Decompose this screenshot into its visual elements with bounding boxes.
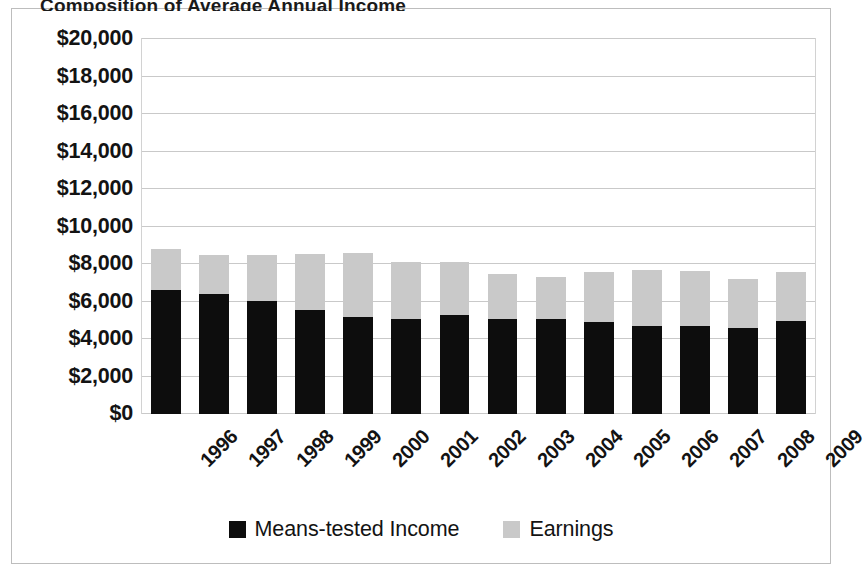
legend-item[interactable]: Earnings xyxy=(503,517,613,542)
x-tick-label: 2003 xyxy=(532,425,579,472)
chart-frame: Composition of Average Annual Income $20… xyxy=(11,8,831,564)
y-tick-label: $14,000 xyxy=(57,138,133,163)
legend-label: Earnings xyxy=(529,517,613,542)
bar-segment-earnings xyxy=(728,279,758,328)
bar-group xyxy=(295,254,325,414)
x-tick-label: 2008 xyxy=(773,425,820,472)
y-tick-label: $20,000 xyxy=(57,26,133,51)
bar-group xyxy=(247,255,277,414)
bar-segment-means-tested-income xyxy=(488,319,518,414)
x-axis: 1996199719981999200020012002200320042005… xyxy=(142,417,815,509)
x-tick-label: 2009 xyxy=(821,425,867,472)
bar-group xyxy=(391,262,421,414)
bar-segment-means-tested-income xyxy=(343,317,373,415)
bar-segment-means-tested-income xyxy=(151,290,181,414)
bar-segment-earnings xyxy=(199,255,229,294)
x-tick-label: 2002 xyxy=(484,425,531,472)
legend-swatch-gray xyxy=(503,521,520,538)
bar-segment-earnings xyxy=(680,271,710,326)
y-tick-label: $12,000 xyxy=(57,176,133,201)
bar-segment-earnings xyxy=(488,274,518,319)
bar-group xyxy=(536,277,566,414)
bar-segment-earnings xyxy=(536,277,566,319)
y-tick-label: $2,000 xyxy=(68,363,133,388)
bar-group xyxy=(440,262,470,414)
bar-group xyxy=(776,272,806,414)
legend-swatch-black xyxy=(229,521,246,538)
bar-segment-means-tested-income xyxy=(728,328,758,414)
bar-segment-means-tested-income xyxy=(632,326,662,414)
x-tick-label: 2007 xyxy=(724,425,771,472)
bar-segment-means-tested-income xyxy=(295,310,325,414)
bars-layer xyxy=(142,39,815,414)
x-tick-label: 2000 xyxy=(388,425,435,472)
y-tick-label: $10,000 xyxy=(57,213,133,238)
bar-group xyxy=(151,249,181,414)
chart-title: Composition of Average Annual Income xyxy=(40,0,406,11)
bar-segment-earnings xyxy=(343,253,373,317)
x-tick-label: 2001 xyxy=(436,425,483,472)
y-tick-label: $0 xyxy=(109,401,133,426)
y-tick-label: $18,000 xyxy=(57,63,133,88)
bar-segment-earnings xyxy=(391,262,421,319)
bar-segment-means-tested-income xyxy=(680,326,710,414)
bar-group xyxy=(632,270,662,414)
bar-segment-earnings xyxy=(295,254,325,310)
x-tick-label: 2005 xyxy=(628,425,675,472)
x-tick-label: 1999 xyxy=(340,425,387,472)
bar-segment-means-tested-income xyxy=(440,315,470,414)
chart-legend: Means-tested IncomeEarnings xyxy=(12,517,830,542)
bar-group xyxy=(584,272,614,415)
y-tick-label: $4,000 xyxy=(68,326,133,351)
x-tick-label: 2004 xyxy=(580,425,627,472)
legend-label: Means-tested Income xyxy=(255,517,460,542)
x-tick-label: 1996 xyxy=(196,425,243,472)
bar-segment-means-tested-income xyxy=(199,294,229,414)
bar-segment-earnings xyxy=(247,255,277,301)
y-tick-label: $6,000 xyxy=(68,288,133,313)
legend-item[interactable]: Means-tested Income xyxy=(229,517,460,542)
bar-segment-earnings xyxy=(776,272,806,321)
bar-group xyxy=(199,255,229,414)
x-tick-label: 1998 xyxy=(292,425,339,472)
bar-group xyxy=(728,279,758,414)
y-tick-label: $16,000 xyxy=(57,101,133,126)
bar-segment-means-tested-income xyxy=(584,322,614,414)
bar-group xyxy=(343,253,373,414)
y-tick-label: $8,000 xyxy=(68,251,133,276)
x-tick-label: 1997 xyxy=(244,425,291,472)
y-axis: $20,000$18,000$16,000$14,000$12,000$10,0… xyxy=(18,38,133,414)
bar-segment-means-tested-income xyxy=(391,319,421,414)
bar-group xyxy=(680,271,710,414)
bar-segment-earnings xyxy=(584,272,614,323)
bar-segment-means-tested-income xyxy=(536,319,566,414)
bar-segment-earnings xyxy=(440,262,470,315)
bar-segment-earnings xyxy=(632,270,662,326)
bar-segment-earnings xyxy=(151,249,181,290)
bar-segment-means-tested-income xyxy=(776,321,806,414)
bar-group xyxy=(488,274,518,414)
bar-segment-means-tested-income xyxy=(247,301,277,414)
x-tick-label: 2006 xyxy=(676,425,723,472)
